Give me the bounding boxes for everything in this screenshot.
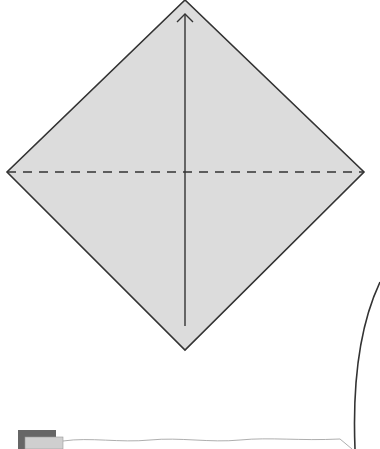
origami-diagram — [0, 0, 380, 449]
preview-sheet-front — [25, 437, 63, 449]
speech-bubble-outline — [354, 282, 380, 449]
torn-edge-line — [63, 439, 352, 449]
